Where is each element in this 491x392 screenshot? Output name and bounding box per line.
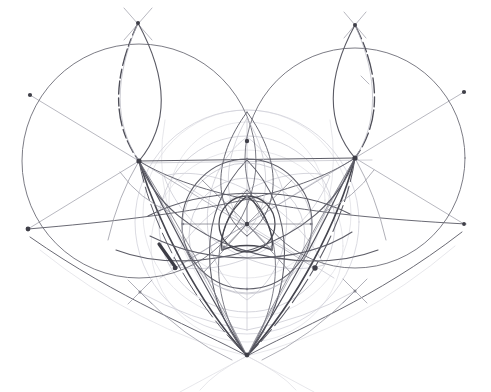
node-cross-left-dot bbox=[139, 291, 142, 294]
node-right-lower-dot bbox=[462, 222, 466, 226]
radial-right-to-lower bbox=[355, 158, 464, 224]
tick-right-upper bbox=[361, 76, 369, 84]
node-apex-top-left-dot bbox=[136, 21, 140, 25]
radial-left-to-upper bbox=[30, 95, 139, 161]
node-right-outer-dot bbox=[462, 90, 466, 94]
lens-right-edge-inner bbox=[355, 25, 375, 158]
node-mark-left-dot bbox=[173, 266, 178, 271]
node-left-lower-dot bbox=[26, 227, 31, 232]
aux-arc-right-hub-b bbox=[355, 158, 386, 240]
lens-right-edge-outer bbox=[333, 25, 355, 158]
spoke-diag-dr bbox=[247, 224, 290, 272]
node-left-outer-dot bbox=[28, 93, 32, 97]
node-apex-bottom-dot bbox=[245, 353, 250, 358]
dark-mark-stroke-left bbox=[159, 244, 176, 268]
node-upper-dot bbox=[245, 139, 249, 143]
node-tri-left-dot bbox=[223, 246, 226, 249]
node-mark-right-dot bbox=[312, 265, 317, 270]
node-hub-right-dot bbox=[352, 155, 357, 160]
lens-center-upper-right bbox=[247, 112, 273, 236]
lens-center-upper-left bbox=[221, 112, 247, 236]
node-apex-top-right-dot bbox=[353, 23, 357, 27]
node-mid-bottom-dot bbox=[246, 288, 249, 291]
node-mid-right-dot bbox=[310, 223, 313, 226]
node-hub-left-dot bbox=[136, 158, 141, 163]
ghost-arc-bottom-left bbox=[200, 356, 247, 390]
ghost-ray-br bbox=[247, 356, 314, 392]
ghost-ray-bl bbox=[180, 356, 247, 392]
lens-right-vertical bbox=[333, 25, 374, 158]
node-mid-left-dot bbox=[182, 223, 185, 226]
node-center-dot bbox=[245, 222, 249, 226]
drawing-canvas: Geometric compass-and-straightedge const… bbox=[0, 0, 491, 392]
node-mid-top-dot bbox=[246, 158, 249, 161]
node-tri-right-dot bbox=[271, 246, 274, 249]
node-top-small-dot bbox=[246, 195, 249, 198]
aux-arc-left-hub-b bbox=[108, 161, 139, 240]
construction-figure bbox=[0, 0, 491, 392]
spoke-diag-dl bbox=[204, 224, 247, 272]
radial-lines-layer bbox=[28, 8, 464, 356]
large-circles-layer bbox=[22, 44, 465, 278]
faint-spoke-c bbox=[170, 176, 247, 224]
ghost-arc-bottom-right bbox=[247, 356, 296, 390]
node-cross-right-dot bbox=[354, 290, 357, 293]
